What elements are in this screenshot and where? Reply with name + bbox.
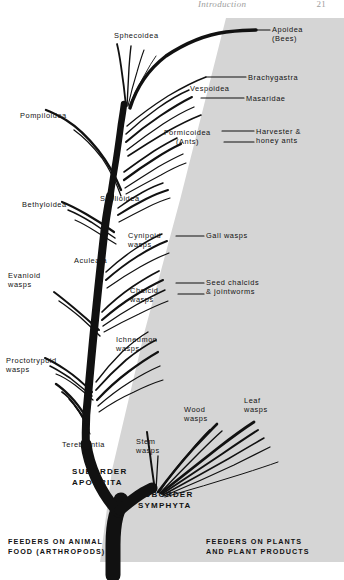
label-masaridae: Masaridae	[246, 94, 285, 103]
label-pompiloidea: Pompiloidea	[20, 111, 67, 120]
label-brachygastra: Brachygastra	[248, 73, 298, 82]
label-formicoidea-line2: (Ants)	[176, 137, 199, 146]
label-harvester-ants-line2: honey ants	[256, 136, 298, 145]
label-harvester-ants-line1: Harvester &	[256, 127, 301, 136]
label-scolioidea: Scolioidea	[100, 194, 140, 203]
label-chalcid-line1: Chalcid	[130, 286, 159, 295]
label-aculeata: Aculeata	[74, 256, 107, 265]
label-stem-wasps-line2: wasps	[136, 446, 160, 455]
label-seed-chalcids-line2: & jointworms	[206, 287, 255, 296]
caption-plant-feeders-line1: FEEDERS ON PLANTS	[206, 537, 302, 547]
label-suborder-symphyta-line1: SUBORDER	[138, 490, 193, 501]
branch-sphecoidea-a	[117, 44, 126, 106]
label-evanioid-line2: wasps	[8, 280, 32, 289]
branch-pompiloidea	[46, 110, 121, 190]
label-bethyloidea: Bethyloidea	[22, 200, 67, 209]
label-ichneumon-line1: Ichneumon	[116, 335, 158, 344]
label-cynipoid-line1: Cynipoid	[128, 231, 161, 240]
label-stem-wasps-line1: Stem	[136, 437, 155, 446]
label-chalcid-line2: wasps	[130, 295, 154, 304]
label-suborder-apocrita-line1: SUBORDER	[72, 467, 127, 478]
label-gall-wasps: Gall wasps	[206, 231, 248, 240]
label-ichneumon-line2: wasps	[116, 344, 140, 353]
label-suborder-apocrita-line2: APOCRITA	[72, 478, 123, 489]
label-sphecoidea: Sphecoidea	[114, 31, 159, 40]
stem-aculeata	[110, 104, 124, 198]
label-wood-wasps-line1: Wood	[184, 405, 205, 414]
label-evanioid-line1: Evanioid	[8, 271, 41, 280]
label-leaf-wasps-line1: Leaf	[244, 396, 261, 405]
label-apoidea-line2: (Bees)	[272, 34, 297, 43]
label-seed-chalcids-line1: Seed chalcids	[206, 278, 259, 287]
figure-page: Introduction 21	[0, 0, 344, 580]
label-proctotrypoid-line2: wasps	[6, 365, 30, 374]
branch-formicoidea-a	[124, 144, 181, 180]
label-suborder-symphyta-line2: SYMPHYTA	[138, 501, 191, 512]
branch-bethyloidea-c	[75, 220, 116, 244]
label-apoidea-line1: Apoidea	[272, 25, 303, 34]
label-proctotrypoid-line1: Proctotrypoid	[6, 356, 57, 365]
label-formicoidea-line1: Formicoidea	[164, 128, 211, 137]
caption-plant-feeders-line2: AND PLANT PRODUCTS	[206, 547, 310, 557]
label-wood-wasps-line2: wasps	[184, 414, 208, 423]
caption-animal-feeders-line1: FEEDERS ON ANIMAL	[8, 537, 103, 547]
caption-animal-feeders-line2: FOOD (ARTHROPODS)	[8, 547, 105, 557]
branch-formicoidea-b	[124, 138, 177, 172]
label-terebrantia: Terebrantia	[62, 440, 105, 449]
label-cynipoid-line2: wasps	[128, 240, 152, 249]
label-vespoidea: Vespoidea	[190, 84, 229, 93]
label-leaf-wasps-line2: wasps	[244, 405, 268, 414]
